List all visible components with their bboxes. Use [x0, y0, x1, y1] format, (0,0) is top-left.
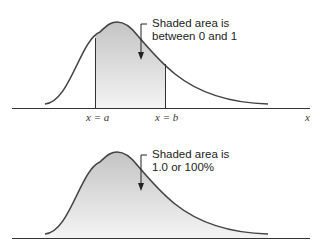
bottom-annotation-line2: 1.0 or 100%	[152, 161, 229, 174]
top-annotation-line1: Shaded area is	[152, 17, 237, 30]
bottom-annotation-line1: Shaded area is	[152, 148, 229, 161]
label-x-equals-b: x = b	[155, 111, 178, 123]
top-annotation-line2: between 0 and 1	[152, 30, 237, 43]
x-axis-label: x	[305, 111, 310, 123]
label-x-equals-a: x = a	[86, 111, 109, 123]
bottom-annotation: Shaded area is 1.0 or 100%	[152, 148, 229, 174]
top-annotation: Shaded area is between 0 and 1	[152, 17, 237, 43]
